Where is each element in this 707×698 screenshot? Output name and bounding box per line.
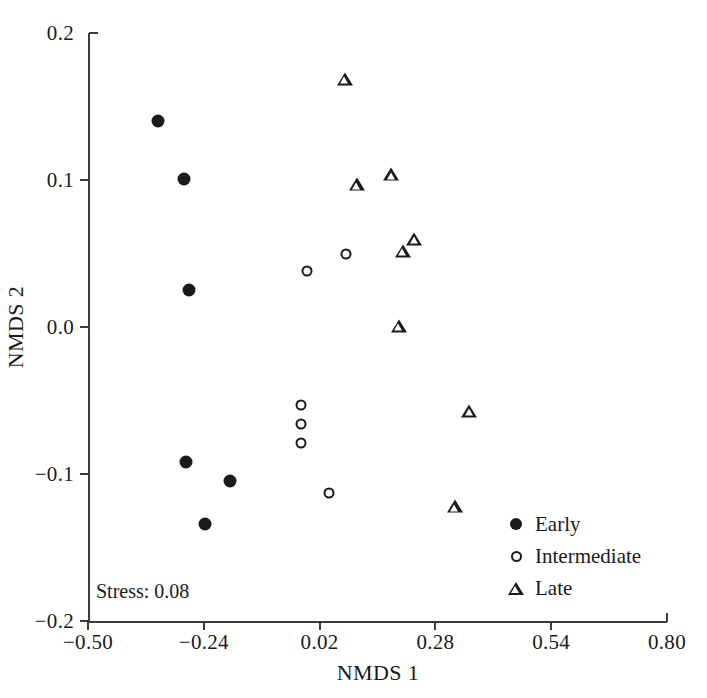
data-point-intermediate <box>301 266 312 277</box>
data-point-early <box>198 517 211 530</box>
data-point-late <box>383 168 399 181</box>
data-point-intermediate <box>295 399 306 410</box>
data-point-late <box>337 72 353 85</box>
nmds-ordination-figure: −0.50−0.240.020.280.540.80 0.20.10.0−0.1… <box>0 0 707 698</box>
data-point-late <box>395 244 411 257</box>
open-triangle-icon <box>505 582 527 595</box>
open-triangle-glyph <box>508 582 524 595</box>
filled-circle-glyph <box>510 518 522 530</box>
filled-circle-icon <box>505 518 527 530</box>
data-point-intermediate <box>340 248 351 259</box>
legend-item-label: Late <box>535 576 572 601</box>
data-point-late <box>461 404 477 417</box>
data-point-late <box>406 232 422 245</box>
data-point-early <box>182 284 195 297</box>
data-point-late <box>349 178 365 191</box>
legend-item-late: Late <box>505 572 641 604</box>
data-point-late <box>391 319 407 332</box>
data-point-late <box>447 500 463 513</box>
data-point-early <box>152 115 165 128</box>
legend-item-label: Early <box>535 512 580 537</box>
legend-item-label: Intermediate <box>535 544 641 569</box>
open-circle-glyph <box>511 551 522 562</box>
legend-item-intermediate: Intermediate <box>505 540 641 572</box>
data-point-intermediate <box>295 419 306 430</box>
legend: EarlyIntermediateLate <box>505 508 641 604</box>
data-point-early <box>224 475 237 488</box>
data-point-early <box>177 172 190 185</box>
data-point-early <box>179 456 192 469</box>
data-point-intermediate <box>295 438 306 449</box>
open-circle-icon <box>505 551 527 562</box>
legend-item-early: Early <box>505 508 641 540</box>
data-point-intermediate <box>324 488 335 499</box>
